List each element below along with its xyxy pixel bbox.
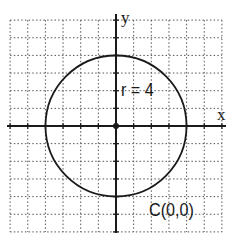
- center-label: C(0,0): [149, 200, 194, 219]
- center-point: [113, 123, 119, 129]
- radius-label: r = 4: [121, 80, 154, 99]
- y-axis-label: y: [121, 9, 130, 26]
- x-axis-label: x: [217, 106, 226, 123]
- coordinate-plane: [0, 0, 232, 235]
